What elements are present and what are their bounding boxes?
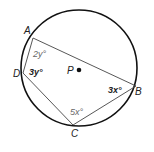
angle-label-d: 3y° <box>29 67 43 77</box>
vertex-label-b: B <box>135 86 142 97</box>
diagram-canvas: P A B C D 2y° 3y° 3x° 5x° <box>0 0 154 152</box>
angle-label-c: 5x° <box>70 107 84 117</box>
angle-label-a: 2y° <box>32 49 47 59</box>
vertex-label-c: C <box>71 128 79 139</box>
vertex-label-d: D <box>13 68 20 79</box>
angle-label-b: 3x° <box>108 85 122 95</box>
center-point-p <box>77 68 82 73</box>
geometry-diagram: P A B C D 2y° 3y° 3x° 5x° <box>0 0 154 152</box>
label-p: P <box>67 65 74 76</box>
vertex-label-a: A <box>23 25 31 36</box>
